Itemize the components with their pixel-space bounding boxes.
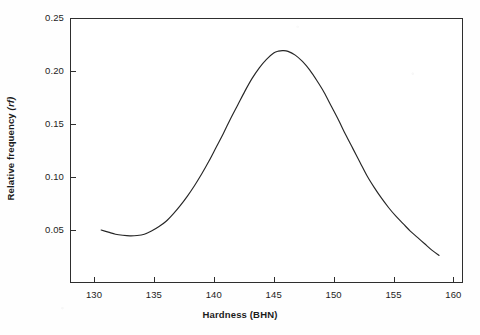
x-tick-label: 140 [192,289,236,300]
y-axis-title-italic: (rf) [5,97,16,111]
y-tick-label: 0.25 [0,12,64,24]
x-tick-label: 160 [431,289,475,300]
distribution-curve [70,18,463,283]
x-tick-label: 145 [252,289,296,300]
y-axis-title: Relative frequency (rf) [5,59,16,239]
x-tick-label: 155 [372,289,416,300]
chart-figure: 0.050.100.150.200.25 1301351401451501551… [0,0,480,335]
x-axis-title: Hardness (BHN) [0,309,480,320]
y-axis-title-text: Relative frequency [5,113,16,200]
x-tick-label: 135 [132,289,176,300]
curve-path [101,51,439,256]
x-tick-label: 150 [312,289,356,300]
x-tick-label: 130 [72,289,116,300]
y-tick-label-text: 0.25 [0,12,64,23]
